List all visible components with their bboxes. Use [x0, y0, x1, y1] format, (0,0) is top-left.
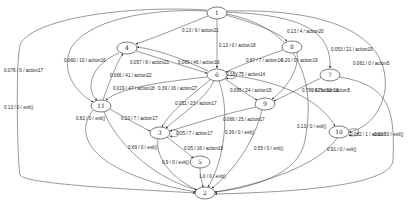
state-node-11: 11: [91, 100, 111, 112]
nodes-layer: 1486711910352: [91, 7, 349, 199]
edge-label: 0.051 / 23 / action17: [175, 101, 217, 106]
edge-label: 0.060 / 10 / action16: [64, 58, 106, 63]
edge-label: 0.13 / 0 / exit(): [297, 124, 327, 129]
node-label: 5: [198, 158, 202, 165]
state-node-8: 8: [282, 41, 302, 53]
edge-label: 0.78 / 4 / action13: [302, 88, 339, 93]
node-label: 11: [97, 102, 105, 109]
node-label: 4: [125, 44, 129, 51]
edge-label: 0.13 / 0 / action18: [219, 43, 256, 48]
edge-label: 0.23 / 7 / action17: [121, 116, 158, 121]
node-label: 3: [158, 129, 162, 136]
edge-11-to-2: [104, 112, 197, 190]
edge-label: 0.069 / 46 / action16: [178, 60, 220, 65]
state-node-5: 5: [190, 156, 210, 168]
edge-label: 0.066 / 25 / action17: [223, 117, 265, 122]
edge-label: 0.9 / 0 / exit(): [162, 160, 189, 165]
edge-label: 0.05 / 7 / action17: [176, 131, 213, 136]
edge-label: 0.095 / 24 / action15: [230, 88, 272, 93]
edge-label: 0.057 / 8 / action21: [130, 60, 170, 65]
state-node-9: 9: [255, 98, 275, 110]
edge-label: 0.87 / 7 / action14: [246, 58, 283, 63]
edge-label: 0.13 / 9 / action21: [182, 28, 219, 33]
edge-label: 0.053 / 21 / action19: [331, 47, 373, 52]
edge-label: 0.55 / 0 / exit(): [254, 146, 284, 151]
state-node-10: 10: [329, 126, 349, 138]
edge-label: 0.16 / 75 / action14: [226, 72, 266, 77]
edge-label: 0.05 / 16 / action16: [184, 146, 224, 151]
edge-label: 0.082 / 1 / action5: [350, 132, 387, 137]
edge-label: 0.82 / 0 / exit(): [76, 116, 106, 121]
edge-1-to-8: [226, 15, 287, 41]
edge-label: 0.066 / 41 / action22: [110, 73, 152, 78]
state-node-6: 6: [207, 69, 227, 81]
edge-label: 0.13 / 4 / action20: [287, 29, 324, 34]
edge-label: 0.076 / 0 / action17: [4, 68, 44, 73]
edge-label: 0.20 / 0 / action19: [281, 58, 318, 63]
state-node-3: 3: [150, 127, 170, 139]
node-label: 6: [215, 71, 219, 78]
edge-label: 0.91 / 0 / exit(): [327, 147, 357, 152]
edge-label: 0.019 / 47 / action18: [113, 86, 155, 91]
edge-label: 0.39 / 0 / exit(): [225, 130, 255, 135]
edge-label: 0.061 / 0 / action5: [353, 61, 390, 66]
node-label: 9: [263, 100, 267, 107]
state-graph: 0.13 / 9 / action210.13 / 0 / action180.…: [0, 0, 420, 209]
state-node-4: 4: [117, 42, 137, 54]
edge-label: 0.69 / 0 / exit(): [128, 145, 158, 150]
state-node-7: 7: [320, 69, 340, 81]
state-node-1: 1: [207, 7, 227, 19]
edge-label: 0.13 / 0 / exit(): [4, 105, 34, 110]
node-label: 10: [335, 128, 343, 135]
edge-label: 0.39 / 16 / action27: [158, 86, 198, 91]
node-label: 7: [328, 71, 332, 78]
node-label: 8: [290, 43, 294, 50]
edge-label: 1.0 / 0 / exit(): [199, 174, 226, 179]
node-label: 2: [203, 189, 207, 196]
node-label: 1: [215, 9, 219, 16]
state-node-2: 2: [195, 187, 215, 199]
edge-6-to-4: [137, 47, 208, 71]
